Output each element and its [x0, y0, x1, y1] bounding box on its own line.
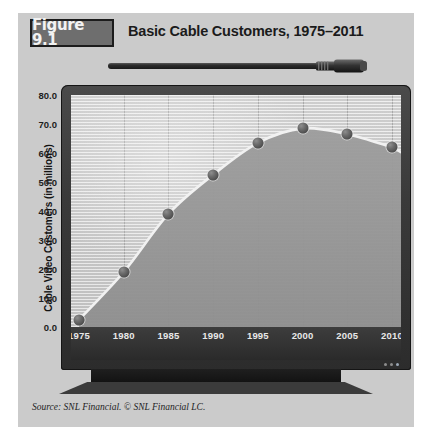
chart-canvas: 19751980198519901995200020052010 — [71, 95, 401, 360]
figure-number-badge: Figure 9.1 — [30, 19, 114, 47]
y-tick-label: 70.0 — [39, 119, 58, 130]
coaxial-cable-icon — [108, 57, 368, 75]
y-axis: Cable Video Customers (in millions) 80.0… — [18, 85, 61, 370]
x-tick-label: 2010 — [381, 330, 401, 341]
y-tick-label: 10.0 — [39, 293, 58, 304]
x-tick-label: 2000 — [292, 330, 314, 341]
crt-monitor-icon: 19751980198519901995200020052010 — [61, 85, 411, 370]
y-tick-label: 20.0 — [39, 264, 58, 275]
figure-title: Basic Cable Customers, 1975–2011 — [128, 23, 363, 39]
x-axis: 19751980198519901995200020052010 — [71, 327, 401, 360]
data-point-marker — [297, 123, 308, 134]
x-tick-label: 1995 — [247, 330, 269, 341]
area-fill-path — [79, 128, 401, 327]
data-point-marker — [252, 137, 263, 148]
figure-panel: Figure 9.1 Basic Cable Customers, 1975–2… — [18, 13, 414, 427]
y-tick-label: 80.0 — [39, 90, 58, 101]
data-point-marker — [208, 169, 219, 180]
data-point-marker — [74, 314, 85, 325]
y-tick-label: 30.0 — [39, 235, 58, 246]
y-tick-label: 50.0 — [39, 177, 58, 188]
x-tick-label: 1980 — [113, 330, 135, 341]
x-tick-label: 2005 — [336, 330, 358, 341]
monitor-base — [59, 382, 373, 394]
data-point-marker — [118, 266, 129, 277]
y-tick-label: 0.0 — [44, 322, 57, 333]
y-axis-title: Cable Video Customers (in millions) — [43, 138, 54, 318]
y-tick-label: 60.0 — [39, 148, 58, 159]
figure-header: Figure 9.1 Basic Cable Customers, 1975–2… — [18, 19, 414, 51]
power-led-icon — [384, 363, 399, 366]
data-point-marker — [342, 129, 353, 140]
x-tick-label: 1985 — [157, 330, 179, 341]
source-caption: Source: SNL Financial. © SNL Financial L… — [32, 402, 205, 412]
x-tick-label: 1990 — [202, 330, 224, 341]
data-point-marker — [163, 208, 174, 219]
figure-number-label: Figure 9.1 — [32, 18, 112, 48]
monitor-neck — [91, 369, 341, 383]
y-tick-label: 40.0 — [39, 206, 58, 217]
monitor-screen: 19751980198519901995200020052010 — [71, 95, 401, 360]
data-point-marker — [387, 142, 398, 153]
x-tick-label: 1975 — [71, 330, 90, 341]
